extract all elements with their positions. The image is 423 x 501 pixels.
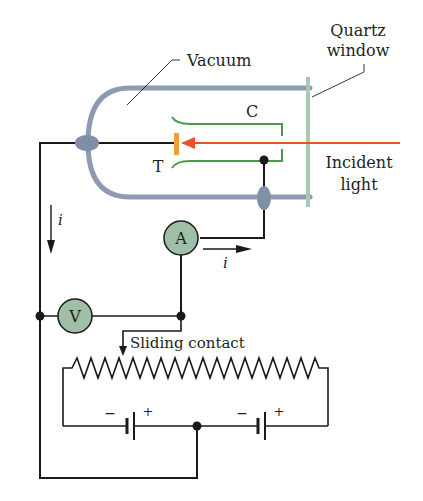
current-label-right: i [223,254,228,272]
light-arrowhead [181,137,195,149]
current-arrowhead-left [47,240,55,254]
incident-light-label-line2: light [340,175,378,194]
battery2-minus: − [236,405,248,421]
battery2-plus: + [274,404,285,419]
incident-light-label-line1: Incident [325,153,393,172]
battery1-minus: − [104,405,116,421]
battery1-plus: + [143,404,154,419]
current-arrowhead-right [236,245,252,253]
vacuum-leader-line [127,60,180,105]
quartz-window-label-line1: Quartz [330,21,385,40]
wire-return [40,426,197,478]
current-label-left: i [58,211,63,229]
photoelectric-diagram: A V Sliding contact − + − + i i Quartz w… [0,0,423,501]
rheostat-resistor [63,358,328,426]
sliding-contact-arrowhead [119,346,127,356]
junction-left [36,312,45,321]
left-seal [75,135,99,151]
vacuum-label: Vacuum [186,51,251,70]
target-label: T [153,157,164,176]
sliding-contact-label: Sliding contact [130,334,245,352]
voltmeter-label: V [68,307,81,326]
collector-label: C [246,102,258,121]
quartz-window-label-line2: window [327,41,390,60]
ammeter-label: A [174,229,187,248]
target-plate [174,133,179,155]
collector-junction [260,156,269,165]
quartz-leader-line [312,64,364,97]
bottom-seal [257,186,271,210]
